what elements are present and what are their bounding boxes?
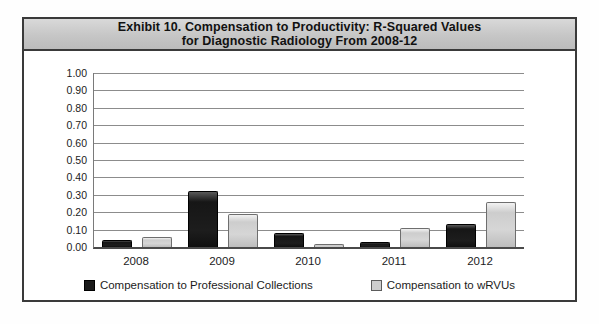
chart-region: 1.000.900.800.700.600.500.400.300.200.10… xyxy=(24,51,575,298)
y-axis-label: 0.00 xyxy=(45,241,87,254)
x-axis-label: 2009 xyxy=(190,255,254,267)
y-axis-label: 0.30 xyxy=(45,189,87,202)
x-axis-label: 2012 xyxy=(448,255,512,267)
bar-2012-series1 xyxy=(486,202,516,247)
x-axis-label: 2010 xyxy=(276,255,340,267)
chart-title-bar: Exhibit 10. Compensation to Productivity… xyxy=(24,19,575,51)
legend-label: Compensation to wRVUs xyxy=(387,279,515,291)
bar-2010-series1 xyxy=(314,244,344,247)
legend-swatch-icon xyxy=(371,280,382,291)
gridline xyxy=(94,90,524,91)
bar-2011-series0 xyxy=(360,242,390,247)
gridline xyxy=(94,108,524,109)
exhibit-figure: Exhibit 10. Compensation to Productivity… xyxy=(0,0,599,324)
gridline xyxy=(94,177,524,178)
gridline xyxy=(94,195,524,196)
y-axis-label: 0.40 xyxy=(45,171,87,184)
chart-title-line1: Exhibit 10. Compensation to Productivity… xyxy=(118,20,482,34)
y-axis-label: 1.00 xyxy=(45,67,87,80)
chart-legend: Compensation to Professional Collections… xyxy=(24,279,575,291)
gridline xyxy=(94,73,524,74)
y-axis-label: 0.50 xyxy=(45,154,87,167)
gridline xyxy=(94,143,524,144)
x-axis-label: 2008 xyxy=(104,255,168,267)
bar-2009-series0 xyxy=(188,191,218,247)
bar-2009-series1 xyxy=(228,214,258,247)
y-axis-label: 0.90 xyxy=(45,84,87,97)
chart-title-line2: for Diagnostic Radiology From 2008-12 xyxy=(182,34,418,48)
y-axis-label: 0.70 xyxy=(45,119,87,132)
bar-2008-series1 xyxy=(142,237,172,247)
plot-area xyxy=(93,73,524,249)
bar-2010-series0 xyxy=(274,233,304,247)
y-axis-label: 0.80 xyxy=(45,102,87,115)
x-axis-label: 2011 xyxy=(362,255,426,267)
gridline xyxy=(94,160,524,161)
exhibit-frame: Exhibit 10. Compensation to Productivity… xyxy=(22,17,577,302)
bar-2011-series1 xyxy=(400,228,430,247)
y-axis-label: 0.60 xyxy=(45,137,87,150)
y-axis-label: 0.20 xyxy=(45,206,87,219)
legend-label: Compensation to Professional Collections xyxy=(100,279,313,291)
gridline xyxy=(94,212,524,213)
gridline xyxy=(94,125,524,126)
legend-item-series1: Compensation to wRVUs xyxy=(371,279,515,291)
y-axis-label: 0.10 xyxy=(45,224,87,237)
legend-swatch-icon xyxy=(84,280,95,291)
bar-2012-series0 xyxy=(446,224,476,247)
legend-item-series0: Compensation to Professional Collections xyxy=(84,279,313,291)
bar-2008-series0 xyxy=(102,240,132,247)
